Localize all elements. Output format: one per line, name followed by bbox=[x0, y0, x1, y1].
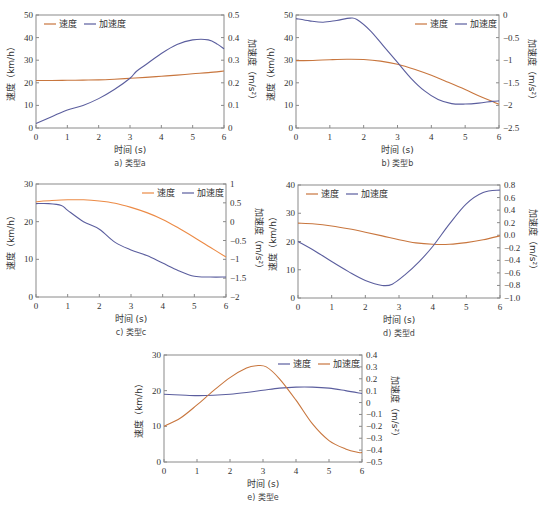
series-line bbox=[296, 59, 499, 104]
y-tick-label: 30 bbox=[24, 55, 34, 65]
series-line bbox=[36, 71, 224, 81]
y-tick-label: 0 bbox=[157, 457, 162, 467]
plot-frame bbox=[298, 185, 500, 298]
chart-caption: a) 类型a bbox=[114, 158, 146, 168]
y2-tick-label: −0.6 bbox=[504, 268, 521, 278]
plot-frame bbox=[36, 184, 226, 297]
y2-tick-label: 0.5 bbox=[230, 198, 242, 208]
legend-label: 加速度 bbox=[361, 188, 388, 199]
x-tick-label: 4 bbox=[430, 302, 435, 312]
x-tick-label: 0 bbox=[294, 132, 299, 142]
y-axis-label: 速度（km/h） bbox=[265, 42, 276, 101]
x-tick-label: 6 bbox=[224, 301, 229, 311]
x-axis-label: 时间 (s) bbox=[247, 478, 280, 489]
chart-a: 01234560102030405000.10.20.30.40.5时间 (s)… bbox=[5, 10, 258, 168]
x-tick-label: 0 bbox=[34, 301, 39, 311]
x-tick-label: 4 bbox=[429, 132, 434, 142]
y-tick-label: 0 bbox=[289, 123, 294, 133]
x-tick-label: 0 bbox=[296, 302, 301, 312]
y2-tick-label: −0.2 bbox=[366, 421, 382, 431]
series-line bbox=[36, 203, 226, 277]
y-axis-label: 速度（km/h） bbox=[267, 212, 278, 271]
y-tick-label: 10 bbox=[152, 421, 162, 431]
x-tick-label: 1 bbox=[65, 132, 70, 142]
x-tick-label: 3 bbox=[395, 132, 400, 142]
y2-tick-label: 1 bbox=[230, 179, 235, 189]
y2-tick-label: −0.5 bbox=[366, 457, 383, 467]
x-tick-label: 2 bbox=[228, 466, 233, 476]
legend-label: 加速度 bbox=[99, 18, 126, 29]
y-tick-label: 30 bbox=[152, 350, 162, 360]
x-tick-label: 3 bbox=[261, 466, 266, 476]
x-tick-label: 5 bbox=[190, 132, 195, 142]
y-tick-label: 20 bbox=[286, 237, 296, 247]
x-axis-label: 时间 (s) bbox=[381, 144, 414, 155]
chart-b: 012345601020304050−2.5−2−1.5−1−0.50时间 (s… bbox=[265, 10, 538, 168]
y2-tick-label: 0.2 bbox=[366, 374, 377, 384]
y-tick-label: 10 bbox=[24, 254, 34, 264]
plot-frame bbox=[296, 15, 499, 128]
y-tick-label: 10 bbox=[284, 100, 294, 110]
legend-label: 加速度 bbox=[197, 187, 224, 198]
y2-tick-label: −1.0 bbox=[504, 293, 521, 303]
chart-d: 0123456010203040−1.0−0.8−0.6−0.4−0.20.00… bbox=[267, 180, 539, 338]
x-tick-label: 2 bbox=[361, 132, 366, 142]
y2-tick-label: 0.1 bbox=[366, 386, 377, 396]
series-line bbox=[298, 223, 500, 244]
y2-tick-label: −0.4 bbox=[504, 255, 521, 265]
y-tick-label: 10 bbox=[24, 100, 34, 110]
x-tick-label: 6 bbox=[498, 302, 503, 312]
y2-tick-label: −1.5 bbox=[503, 78, 520, 88]
y2-tick-label: 0.3 bbox=[366, 362, 378, 372]
x-tick-label: 5 bbox=[463, 132, 468, 142]
legend-label: 速度 bbox=[59, 18, 77, 29]
y2-tick-label: −0.3 bbox=[366, 433, 383, 443]
y2-tick-label: 0.4 bbox=[228, 33, 240, 43]
x-tick-label: 4 bbox=[294, 466, 299, 476]
chart-c: 01234560102030−2−1.5−1−0.500.51时间 (s)c) … bbox=[5, 179, 265, 337]
x-tick-label: 3 bbox=[397, 302, 402, 312]
y2-axis-label: 加速度（m/s²） bbox=[527, 39, 538, 104]
x-tick-label: 6 bbox=[360, 466, 365, 476]
x-axis-label: 时间 (s) bbox=[383, 314, 416, 325]
y2-tick-label: 0 bbox=[228, 123, 233, 133]
y2-tick-label: 0.1 bbox=[228, 100, 239, 110]
legend-label: 加速度 bbox=[470, 18, 497, 29]
chart-caption: c) 类型c bbox=[116, 327, 146, 337]
y-tick-label: 0 bbox=[291, 293, 296, 303]
y2-axis-label: 加速度（m/s²） bbox=[528, 209, 539, 274]
y-tick-label: 20 bbox=[284, 78, 294, 88]
y2-tick-label: −2.5 bbox=[503, 123, 520, 133]
y-tick-label: 30 bbox=[286, 208, 296, 218]
y2-axis-label: 加速度（m/s²） bbox=[254, 208, 265, 273]
y2-tick-label: −0.5 bbox=[230, 236, 247, 246]
y-tick-label: 0 bbox=[29, 292, 34, 302]
y2-tick-label: 0.0 bbox=[504, 230, 516, 240]
chart-caption: e) 类型e bbox=[247, 492, 279, 502]
y2-tick-label: 0 bbox=[230, 217, 235, 227]
y-tick-label: 30 bbox=[284, 55, 294, 65]
x-tick-label: 3 bbox=[129, 301, 134, 311]
legend-label: 加速度 bbox=[333, 358, 360, 369]
y-tick-label: 50 bbox=[284, 10, 294, 20]
y-tick-label: 0 bbox=[29, 123, 34, 133]
series-line bbox=[36, 39, 224, 123]
y2-tick-label: −0.2 bbox=[504, 243, 520, 253]
series-line bbox=[164, 365, 362, 452]
chart-canvas: 01234560102030405000.10.20.30.40.5时间 (s)… bbox=[0, 0, 542, 511]
y-tick-label: 50 bbox=[24, 10, 34, 20]
y-axis-label: 速度（km/h） bbox=[5, 42, 16, 101]
x-tick-label: 3 bbox=[128, 132, 133, 142]
y2-tick-label: 0.3 bbox=[228, 55, 240, 65]
series-line bbox=[164, 387, 362, 396]
y2-tick-label: 0.5 bbox=[228, 10, 240, 20]
y2-tick-label: −1.5 bbox=[230, 273, 247, 283]
x-axis-label: 时间 (s) bbox=[114, 144, 147, 155]
y2-axis-label: 加速度（m/s²） bbox=[247, 39, 258, 104]
y2-tick-label: 0.2 bbox=[504, 218, 515, 228]
y2-tick-label: 0 bbox=[503, 10, 508, 20]
y2-tick-label: 0.6 bbox=[504, 193, 516, 203]
x-tick-label: 4 bbox=[159, 132, 164, 142]
legend-label: 速度 bbox=[321, 188, 339, 199]
plot-frame bbox=[164, 355, 362, 462]
